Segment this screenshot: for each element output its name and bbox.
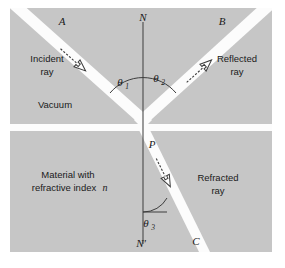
theta3-subscript: 3	[150, 223, 155, 232]
label-point-n-prime: N'	[135, 237, 146, 249]
theta1-subscript: 1	[125, 82, 129, 91]
vacuum-label: Vacuum	[38, 99, 72, 110]
label-point-b: B	[219, 15, 226, 27]
label-point-a: A	[58, 15, 66, 27]
refraction-diagram-figure: A N B P N' C θ 1 θ 2 θ 3 Incident ray Re…	[0, 0, 285, 268]
material-label-line1: Material with	[41, 169, 94, 180]
incident-ray-label-line1: Incident	[30, 53, 64, 64]
diagram-canvas: A N B P N' C θ 1 θ 2 θ 3 Incident ray Re…	[0, 0, 285, 268]
label-point-c: C	[192, 235, 200, 247]
reflected-ray-label-line1: Reflected	[217, 53, 257, 64]
media-panel-group	[3, 0, 281, 256]
material-label-text: refractive index	[32, 182, 97, 193]
incident-ray-label-line2: ray	[40, 66, 53, 77]
theta2-subscript: 2	[161, 78, 165, 87]
label-point-p: P	[148, 138, 156, 150]
theta1-symbol: θ	[117, 76, 123, 88]
material-label-line2: refractive index n	[32, 182, 108, 193]
refracted-ray-label-line1: Refracted	[197, 172, 238, 183]
refractive-index-symbol: n	[103, 182, 108, 193]
theta3-symbol: θ	[143, 217, 149, 229]
reflected-ray-label-line2: ray	[230, 66, 243, 77]
theta2-symbol: θ	[153, 72, 159, 84]
refracted-ray-label-line2: ray	[211, 185, 224, 196]
label-point-n: N	[138, 11, 147, 23]
